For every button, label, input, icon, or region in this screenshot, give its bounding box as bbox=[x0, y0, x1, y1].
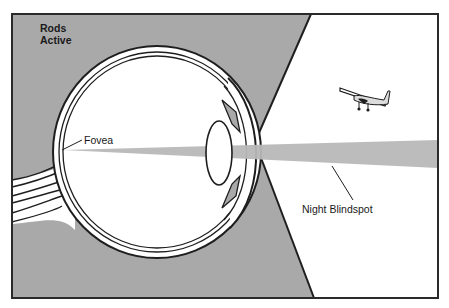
fovea-label: Fovea bbox=[84, 134, 113, 146]
rods-label-line1: Rods bbox=[40, 22, 72, 34]
night-blindspot-label: Night Blindspot bbox=[302, 203, 373, 215]
eye-diagram: Rods Active Fovea Night Blindspot bbox=[0, 0, 449, 308]
rods-active-label: Rods Active bbox=[40, 22, 72, 46]
airplane-icon bbox=[340, 88, 390, 112]
rods-label-line2: Active bbox=[40, 34, 72, 46]
diagram-graphic bbox=[0, 0, 449, 308]
